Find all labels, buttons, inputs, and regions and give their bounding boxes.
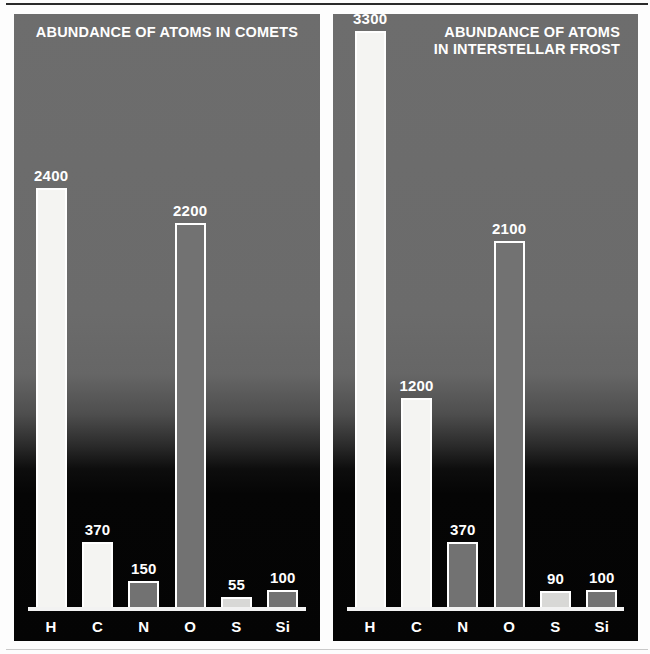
chart-panel-comets: ABUNDANCE OF ATOMS IN COMETS 24003701502… xyxy=(14,14,320,641)
bar-value-si: 100 xyxy=(243,569,320,586)
bar-c xyxy=(401,398,432,607)
axis-label-h: H xyxy=(365,618,376,635)
axis-label-o: O xyxy=(184,618,196,635)
axis-label-si: Si xyxy=(594,618,609,635)
chart-panel-interstellar-frost: ABUNDANCE OF ATOMS IN INTERSTELLAR FROST… xyxy=(333,14,638,641)
bar-value-o: 2200 xyxy=(150,202,230,219)
axis-label-s: S xyxy=(550,618,560,635)
axis-label-s: S xyxy=(231,618,241,635)
axis-labels-interstellar-frost: HCNOSSi xyxy=(347,618,624,641)
bar-value-h: 2400 xyxy=(14,167,91,184)
plot-area-interstellar-frost: 33001200370210090100 xyxy=(333,14,638,607)
bar-value-c: 1200 xyxy=(377,377,457,394)
bottom-divider-rule xyxy=(6,649,648,650)
axis-baseline-comets xyxy=(28,607,306,611)
axis-label-o: O xyxy=(503,618,515,635)
bar-h xyxy=(36,188,67,607)
axis-label-c: C xyxy=(92,618,103,635)
axis-label-n: N xyxy=(138,618,149,635)
bar-o xyxy=(494,241,525,607)
plot-area-comets: 2400370150220055100 xyxy=(14,14,320,607)
axis-label-c: C xyxy=(411,618,422,635)
bar-n xyxy=(447,542,478,607)
bar-si xyxy=(586,590,617,607)
bar-s xyxy=(221,597,252,607)
axis-label-n: N xyxy=(457,618,468,635)
bar-value-h: 3300 xyxy=(333,14,410,27)
bar-value-n: 150 xyxy=(104,560,184,577)
axis-baseline-interstellar-frost xyxy=(347,607,624,611)
bar-value-c: 370 xyxy=(58,521,138,538)
axis-labels-comets: HCNOSSi xyxy=(28,618,306,641)
bar-value-si: 100 xyxy=(562,569,638,586)
bar-n xyxy=(128,581,159,607)
bar-o xyxy=(175,223,206,607)
bar-value-o: 2100 xyxy=(469,220,549,237)
bar-si xyxy=(267,590,298,607)
axis-label-h: H xyxy=(46,618,57,635)
bar-value-n: 370 xyxy=(423,521,503,538)
axis-label-si: Si xyxy=(275,618,290,635)
bar-s xyxy=(540,591,571,607)
chart-page: ABUNDANCE OF ATOMS IN COMETS 24003701502… xyxy=(0,0,650,654)
bar-h xyxy=(355,31,386,607)
top-divider-rule xyxy=(6,3,648,5)
